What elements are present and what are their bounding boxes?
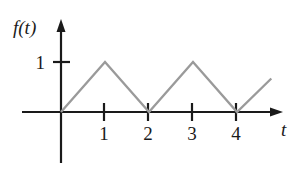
x-axis-arrowhead	[270, 108, 283, 117]
y-axis-label: f(t)	[13, 18, 36, 37]
plot-canvas	[0, 0, 299, 173]
x-tick-label-1: 1	[93, 124, 115, 143]
x-axis-label: t	[281, 120, 286, 139]
y-axis-arrowhead	[57, 19, 66, 32]
x-tick-label-3: 3	[181, 124, 203, 143]
x-tick-label-2: 2	[137, 124, 159, 143]
triangular-wave-figure: f(t) t 1 1 2 3 4	[0, 0, 299, 173]
y-tick-label-1: 1	[29, 53, 45, 72]
x-tick-label-4: 4	[225, 124, 247, 143]
waveform-curve	[61, 62, 271, 112]
